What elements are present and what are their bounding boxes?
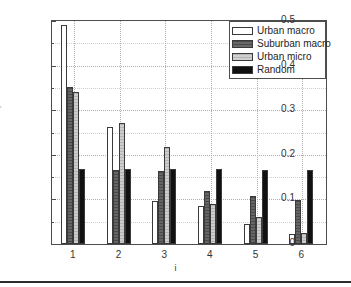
y-axis-label: Eigenvalues λi: [0, 78, 2, 198]
bar: [79, 169, 85, 244]
x-axis-tick-label: 6: [286, 249, 316, 260]
y-axis-tick: [51, 66, 56, 67]
legend-swatch: [232, 66, 253, 74]
y-axis-tick: [51, 21, 56, 22]
y-axis-tick-label: 0.3: [281, 104, 295, 114]
y-axis-tick-label: 0.5: [281, 15, 295, 25]
y-axis-tick: [51, 199, 56, 200]
bar: [307, 170, 313, 244]
legend-label: Urban macro: [257, 25, 315, 36]
legend-item[interactable]: Suburban macro: [232, 37, 323, 50]
x-axis-tick-label: 3: [149, 249, 179, 260]
bar: [216, 169, 222, 244]
y-axis-tick-minor: [51, 222, 54, 223]
y-axis-tick: [51, 155, 56, 156]
y-axis-label-subscript: i: [0, 106, 2, 108]
y-axis-tick: [51, 110, 56, 111]
y-axis-tick-minor: [51, 43, 54, 44]
legend-item[interactable]: Random: [232, 63, 323, 76]
figure-bottom-rule: [0, 281, 351, 283]
bar: [125, 169, 131, 244]
y-gridline-minor: [52, 222, 326, 223]
legend-swatch: [232, 53, 253, 61]
legend-label: Suburban macro: [257, 38, 331, 49]
x-axis-tick-label: 2: [104, 249, 134, 260]
y-gridline-minor: [52, 88, 326, 89]
legend-item[interactable]: Urban micro: [232, 50, 323, 63]
y-axis-tick-label: 0: [289, 238, 295, 248]
y-axis-tick-label: 0.1: [281, 193, 295, 203]
y-axis-tick-minor: [51, 88, 54, 89]
legend-item[interactable]: Urban macro: [232, 24, 323, 37]
x-axis-tick-label: 1: [58, 249, 88, 260]
x-axis-label: i: [0, 263, 351, 273]
y-gridline-minor: [52, 177, 326, 178]
legend-swatch: [232, 40, 253, 48]
figure-canvas: Eigenvalues λi i Urban macroSuburban mac…: [0, 0, 351, 287]
y-axis-tick: [51, 244, 56, 245]
x-axis-tick-label: 4: [195, 249, 225, 260]
y-gridline-minor: [52, 133, 326, 134]
x-axis-tick-label: 5: [241, 249, 271, 260]
y-axis-tick-label: 0.4: [281, 60, 295, 70]
y-axis-tick-minor: [51, 133, 54, 134]
bar: [262, 170, 268, 244]
bar: [170, 169, 176, 244]
legend: Urban macroSuburban macroUrban microRand…: [229, 21, 326, 79]
legend-swatch: [232, 27, 253, 35]
y-axis-tick-minor: [51, 177, 54, 178]
y-axis-tick-label: 0.2: [281, 149, 295, 159]
